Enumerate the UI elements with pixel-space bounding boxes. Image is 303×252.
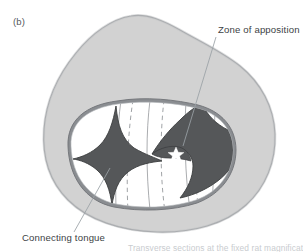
caption-partial: Transverse sections at the fixed rat mag… [128, 243, 303, 252]
label-connecting-tongue: Connecting tongue [22, 232, 105, 243]
cross-section-illustration: (b) [0, 0, 303, 252]
figure-container: (b) [0, 0, 303, 252]
panel-label: (b) [13, 16, 25, 27]
label-zone-of-apposition: Zone of apposition [218, 24, 300, 35]
